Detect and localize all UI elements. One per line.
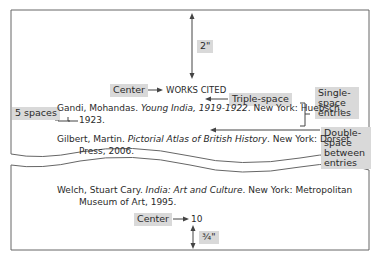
page-number: 10 bbox=[191, 214, 202, 225]
citation-author: Welch, Stuart Cary. bbox=[57, 185, 146, 195]
citation-entry-line: Welch, Stuart Cary. India: Art and Cultu… bbox=[57, 185, 352, 196]
double-space-callout-line: entries bbox=[324, 158, 368, 168]
citation-author: Gilbert, Martin. bbox=[57, 134, 128, 144]
citation-publisher: . New York: Metropolitan bbox=[243, 185, 353, 195]
citation-publisher: . New York: Huebsch, bbox=[248, 103, 343, 113]
citation-publisher: . New York: Dorset bbox=[267, 134, 350, 144]
bottom-margin-label: ¾" bbox=[199, 231, 219, 244]
citation-title: Pictorial Atlas of British History bbox=[128, 134, 267, 144]
indent-callout: 5 spaces bbox=[12, 107, 60, 120]
top-margin-label: 2" bbox=[197, 40, 213, 53]
citation-title: India: Art and Culture bbox=[146, 185, 243, 195]
citation-author: Gandi, Mohandas. bbox=[57, 103, 141, 113]
center-page-number-callout: Center bbox=[134, 213, 172, 226]
citation-entry-line: Gilbert, Martin. Pictorial Atlas of Brit… bbox=[57, 134, 350, 145]
citation-entry-continuation: Press, 2006. bbox=[79, 146, 134, 157]
center-heading-callout: Center bbox=[110, 84, 148, 97]
citation-entry-continuation: Museum of Art, 1995. bbox=[79, 197, 176, 208]
works-cited-heading: WORKS CITED bbox=[166, 85, 226, 96]
citation-title: Young India, 1919-1922 bbox=[141, 103, 248, 113]
citation-entry-continuation: 1923. bbox=[79, 115, 105, 126]
citation-entry-line: Gandi, Mohandas. Young India, 1919-1922.… bbox=[57, 103, 343, 114]
